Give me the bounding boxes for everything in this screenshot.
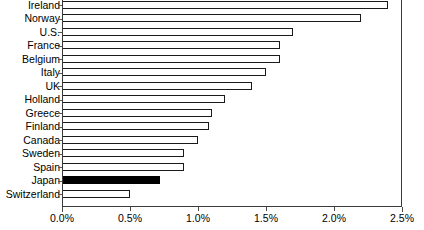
chart-row: Canada bbox=[0, 134, 424, 148]
bar bbox=[62, 109, 212, 117]
y-axis-tick bbox=[58, 73, 62, 74]
category-label: Ireland bbox=[28, 0, 60, 12]
category-label: Norway bbox=[24, 12, 60, 26]
y-axis-tick bbox=[58, 127, 62, 128]
y-axis-tick bbox=[58, 86, 62, 87]
chart-row: Sweden bbox=[0, 147, 424, 161]
chart-row: Holland bbox=[0, 93, 424, 107]
bar bbox=[62, 136, 198, 144]
y-axis-tick bbox=[58, 46, 62, 47]
y-axis-tick bbox=[58, 32, 62, 33]
x-axis-tick-label: 1.5% bbox=[236, 212, 296, 225]
category-label: Finland bbox=[26, 120, 60, 134]
x-axis-tick-label: 2.0% bbox=[304, 212, 364, 225]
bar bbox=[62, 190, 130, 198]
x-axis-tick-label: 2.5% bbox=[372, 212, 424, 225]
bar bbox=[62, 149, 184, 157]
chart-row: Spain bbox=[0, 161, 424, 175]
category-label: Switzerland bbox=[6, 188, 60, 202]
bar bbox=[62, 55, 280, 63]
y-axis-tick bbox=[58, 194, 62, 195]
bar bbox=[62, 14, 361, 22]
bar bbox=[62, 1, 388, 9]
bar bbox=[62, 163, 184, 171]
bar-chart: IrelandNorwayU.S.FranceBelgiumItalyUKHol… bbox=[0, 0, 424, 230]
chart-row: Norway bbox=[0, 12, 424, 26]
x-axis-tick-label: 1.0% bbox=[168, 212, 228, 225]
x-axis-tick bbox=[198, 207, 199, 211]
y-axis-tick bbox=[58, 113, 62, 114]
category-label: Sweden bbox=[22, 147, 60, 161]
y-axis-tick bbox=[58, 19, 62, 20]
category-label: Greece bbox=[26, 107, 60, 121]
category-label: Holland bbox=[24, 93, 60, 107]
category-label: Spain bbox=[33, 161, 60, 175]
chart-row: Belgium bbox=[0, 53, 424, 67]
chart-rows: IrelandNorwayU.S.FranceBelgiumItalyUKHol… bbox=[0, 0, 424, 207]
chart-row: Switzerland bbox=[0, 188, 424, 202]
category-label: Belgium bbox=[22, 53, 60, 67]
y-axis-tick bbox=[58, 5, 62, 6]
category-label: Canada bbox=[23, 134, 60, 148]
y-axis-tick bbox=[58, 100, 62, 101]
bar bbox=[62, 68, 266, 76]
y-axis-tick bbox=[58, 167, 62, 168]
y-axis-tick bbox=[58, 181, 62, 182]
chart-row: UK bbox=[0, 80, 424, 94]
bar bbox=[62, 122, 209, 130]
chart-row: France bbox=[0, 39, 424, 53]
chart-row: Greece bbox=[0, 107, 424, 121]
bar bbox=[62, 28, 293, 36]
chart-row: U.S. bbox=[0, 26, 424, 40]
category-label: France bbox=[27, 39, 60, 53]
bar-highlighted bbox=[62, 176, 160, 184]
x-axis-tick bbox=[266, 207, 267, 211]
chart-row: Finland bbox=[0, 120, 424, 134]
bar bbox=[62, 41, 280, 49]
bar bbox=[62, 95, 225, 103]
chart-row: Italy bbox=[0, 66, 424, 80]
y-axis-tick bbox=[58, 59, 62, 60]
x-axis-tick-label: 0.5% bbox=[100, 212, 160, 225]
category-label: Japan bbox=[31, 174, 60, 188]
x-axis-line bbox=[62, 206, 402, 207]
chart-row: Japan bbox=[0, 174, 424, 188]
bar bbox=[62, 82, 252, 90]
y-axis-tick bbox=[58, 140, 62, 141]
x-axis-tick bbox=[334, 207, 335, 211]
category-label: U.S. bbox=[40, 26, 60, 40]
x-axis-tick-label: 0.0% bbox=[32, 212, 92, 225]
chart-row: Ireland bbox=[0, 0, 424, 12]
x-axis-tick bbox=[130, 207, 131, 211]
y-axis-tick bbox=[58, 154, 62, 155]
